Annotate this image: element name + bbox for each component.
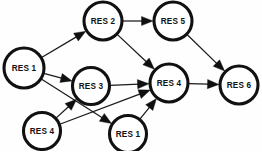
edge-shaft	[44, 73, 63, 78]
edge-shaft	[187, 35, 217, 65]
edge-shaft	[140, 106, 150, 119]
node-label: RES 4	[30, 127, 55, 136]
node-n3[interactable]: RES 3	[73, 68, 110, 105]
edge-shaft	[117, 34, 147, 62]
edge-shaft	[42, 36, 78, 57]
node-n6[interactable]: RES 6	[220, 66, 258, 104]
arrowhead-icon	[142, 16, 154, 25]
edge-res2-to-res4	[117, 34, 154, 69]
graph-canvas: RES 1RES 2RES 3RES 4RES 5RES 6RES 4RES 1	[0, 0, 262, 151]
node-label: RES 1	[116, 130, 141, 139]
node-n5[interactable]: RES 5	[154, 2, 192, 40]
edge-res1-to-res3	[44, 73, 72, 82]
node-n7[interactable]: RES 4	[24, 113, 61, 150]
node-label: RES 5	[161, 17, 186, 26]
edge-shaft	[56, 106, 69, 118]
node-n4[interactable]: RES 4	[150, 64, 188, 102]
edge-shaft	[110, 84, 139, 85]
edge-res1-to-res2	[42, 31, 86, 57]
node-label: RES 6	[227, 81, 252, 90]
edges-layer	[41, 16, 224, 124]
node-label: RES 1	[12, 64, 37, 73]
edge-res3-to-res4	[110, 80, 149, 89]
arrowhead-icon	[74, 31, 86, 41]
edge-res2-to-res5	[123, 16, 154, 25]
arrowhead-icon	[138, 90, 150, 99]
arrowhead-icon	[60, 74, 72, 83]
node-n1[interactable]: RES 1	[4, 48, 44, 88]
edge-res1-to-res4	[140, 99, 157, 120]
node-label: RES 2	[91, 17, 116, 26]
edge-shaft	[188, 84, 209, 85]
node-label: RES 3	[79, 82, 104, 91]
node-n2[interactable]: RES 2	[84, 2, 122, 40]
nodes-layer: RES 1RES 2RES 3RES 4RES 5RES 6RES 4RES 1	[4, 2, 258, 151]
node-n8[interactable]: RES 1	[110, 116, 147, 152]
edge-res5-to-res6	[187, 35, 225, 72]
node-label: RES 4	[157, 79, 182, 88]
arrowhead-icon	[137, 80, 149, 89]
arrowhead-icon	[146, 99, 157, 111]
edge-res4-to-res3	[56, 99, 77, 118]
edge-res4-to-res6	[188, 80, 219, 89]
arrowhead-icon	[207, 80, 219, 89]
resource-dependency-diagram: RES 1RES 2RES 3RES 4RES 5RES 6RES 4RES 1	[0, 0, 262, 151]
arrowhead-icon	[99, 114, 111, 124]
